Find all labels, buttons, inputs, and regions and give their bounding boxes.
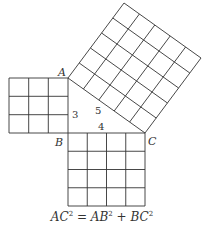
side-label-ab: 3: [72, 109, 78, 120]
vertex-label-b: B: [54, 136, 63, 149]
formula-lhs: AC: [51, 210, 69, 224]
side-label-bc: 4: [98, 121, 104, 132]
formula-term-ab: AB: [91, 210, 108, 224]
pythagorean-formula: AC2 = AB2 + BC2: [0, 210, 204, 224]
vertex-label-a: A: [57, 66, 66, 79]
pythagoras-diagram: A B C 3 4 5: [0, 0, 204, 228]
vertex-label-c: C: [148, 135, 157, 148]
formula-term-bc: BC: [130, 210, 148, 224]
formula-term-bc-exponent: 2: [149, 210, 153, 218]
square-on-bc: [68, 133, 145, 206]
side-label-ac: 5: [95, 105, 101, 116]
square-on-ac: [68, 3, 201, 133]
formula-plus: +: [113, 210, 131, 224]
square-on-ab: [9, 78, 68, 133]
formula-equals: =: [73, 210, 91, 224]
